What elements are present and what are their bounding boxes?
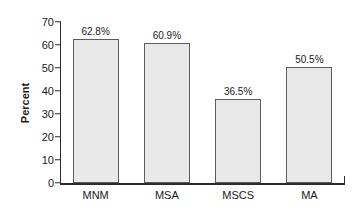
bar: 60.9%	[144, 43, 190, 183]
y-axis-tick-label: 0	[34, 177, 54, 189]
x-axis-category-label: MSA	[155, 189, 179, 201]
y-axis-tick-label: 10	[34, 154, 54, 166]
bar: 62.8%	[73, 39, 119, 183]
plot-area: 62.8%60.9%36.5%50.5%	[60, 22, 345, 183]
y-axis-title: Percent	[14, 22, 36, 183]
y-axis-title-label: Percent	[19, 82, 31, 122]
y-axis-tick-label: 50	[34, 62, 54, 74]
x-axis-category-label: MSCS	[222, 189, 254, 201]
bar-value-label: 62.8%	[81, 26, 109, 37]
y-axis-tick-label: 70	[34, 16, 54, 28]
x-axis-category-label: MA	[301, 189, 318, 201]
y-axis-tick-label: 60	[34, 39, 54, 51]
x-axis-line	[60, 183, 345, 185]
bar-value-label: 50.5%	[295, 54, 323, 65]
y-axis-tick-label: 30	[34, 108, 54, 120]
bar-value-label: 36.5%	[224, 86, 252, 97]
y-axis-tick-labels: 010203040506070	[34, 0, 54, 214]
bar-value-label: 60.9%	[153, 30, 181, 41]
y-axis-tick-label: 40	[34, 85, 54, 97]
x-axis-category-label: MNM	[82, 189, 108, 201]
bar: 36.5%	[215, 99, 261, 183]
bar-chart: Percent 010203040506070 62.8%60.9%36.5%5…	[0, 0, 361, 214]
y-axis-tick-label: 20	[34, 131, 54, 143]
bar: 50.5%	[286, 67, 332, 183]
